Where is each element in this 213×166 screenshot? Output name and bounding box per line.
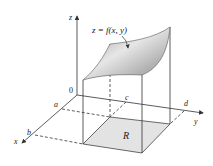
region-label: R	[122, 130, 129, 141]
double-integral-diagram: z = f(x, y) R z y x 0 a b c d	[0, 0, 213, 166]
bound-c-label: c	[125, 93, 129, 102]
bound-a-label: a	[54, 100, 58, 109]
bound-b-label: b	[27, 128, 31, 137]
y-axis-label: y	[193, 117, 198, 126]
dashed-d-line	[170, 111, 184, 124]
x-axis-label: x	[13, 137, 18, 146]
surface-label: z = f(x, y)	[91, 25, 127, 35]
dashed-b-line	[35, 135, 83, 144]
z-axis-label: z	[68, 13, 73, 22]
origin-label: 0	[69, 86, 73, 95]
dashed-c-line	[110, 102, 126, 117]
dashed-a-line	[62, 109, 110, 117]
bound-d-label: d	[184, 99, 189, 108]
